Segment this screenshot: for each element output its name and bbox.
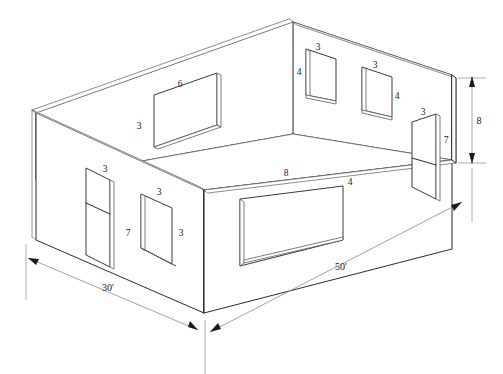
- label-right-door-height: 7: [444, 135, 449, 145]
- label-front-window-height: 4: [348, 177, 353, 187]
- front-right-window-jamb-reveal: [240, 199, 244, 266]
- isometric-drawing-canvas: 50' 30' 8 6 3 3 4 3 4 3 7: [0, 0, 503, 374]
- dim-30-label: 30': [102, 282, 114, 293]
- front-left-wall-bottom-corner: [32, 237, 36, 240]
- room-isometric-svg: 50' 30' 8 6 3 3 4 3 4 3 7: [0, 0, 503, 374]
- label-br-window2-height: 4: [395, 91, 400, 101]
- label-front-door-height: 7: [126, 228, 131, 238]
- back-right-window-2-jamb-reveal: [362, 67, 366, 112]
- label-front-small-window-height: 3: [179, 228, 184, 238]
- front-left-door-jamb-reveal: [110, 180, 114, 269]
- dim-8-arrow-bottom: [469, 153, 475, 164]
- label-front-small-window-width: 3: [157, 187, 162, 197]
- dimension-8-height: 8: [458, 76, 486, 164]
- label-front-window-width: 8: [284, 168, 289, 178]
- dim-30-arrow-left: [28, 258, 39, 265]
- label-front-door-width: 3: [103, 164, 108, 174]
- back-right-window-1-jamb-reveal: [306, 49, 310, 97]
- right-corner-post-face: [452, 75, 456, 163]
- opening-back-right-window-1: [306, 49, 336, 104]
- dim-50-label: 50': [335, 261, 347, 272]
- right-door-jamb-reveal: [436, 114, 440, 201]
- back-left-window-jamb-reveal: [217, 73, 221, 127]
- dim-50-arrow-left: [210, 323, 221, 332]
- label-right-door-width: 3: [421, 107, 426, 117]
- label-back-left-window-width: 6: [178, 79, 183, 89]
- front-left-window-jamb-reveal: [141, 194, 145, 250]
- right-door-opening: [412, 114, 436, 199]
- label-br-window2-width: 3: [373, 60, 378, 70]
- opening-right-door: [412, 114, 440, 201]
- dim-8-label: 8: [477, 115, 482, 126]
- front-left-door-opening: [86, 168, 110, 267]
- label-back-left-window-height: 3: [137, 121, 142, 131]
- dim-30-arrow-right: [188, 321, 198, 330]
- right-corner-post: [452, 75, 456, 163]
- label-br-window1-height: 4: [297, 67, 302, 77]
- opening-front-left-door: [86, 168, 114, 269]
- label-br-window1-width: 3: [316, 42, 321, 52]
- dim-50-arrow-right: [451, 202, 462, 211]
